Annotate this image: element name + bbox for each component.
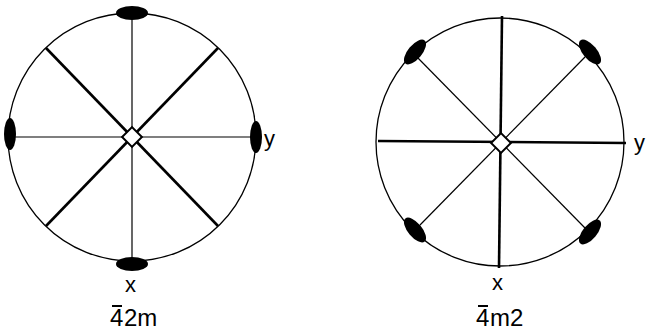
axis-label-y: y [264,126,275,151]
twofold-axis-icon [116,6,148,20]
axis-label-y: y [634,130,645,155]
twofold-axis-icon [250,121,262,153]
twofold-axis-icon [116,257,148,271]
caption-rest: 2m [124,304,157,331]
symmetry-diagrams: y x 4 2m y x 4 m2 [0,0,652,335]
diagram-4barm2: y x 4 m2 [376,16,645,331]
axis-label-x: x [492,270,503,295]
caption-4: 4 [110,304,123,331]
twofold-axis-icon [575,216,605,248]
caption-4: 4 [476,304,489,331]
axis-label-x: x [125,272,136,297]
caption-rest: m2 [490,304,523,331]
diagram-4bar2m: y x 4 2m [4,6,275,331]
twofold-axis-icon [4,118,16,150]
